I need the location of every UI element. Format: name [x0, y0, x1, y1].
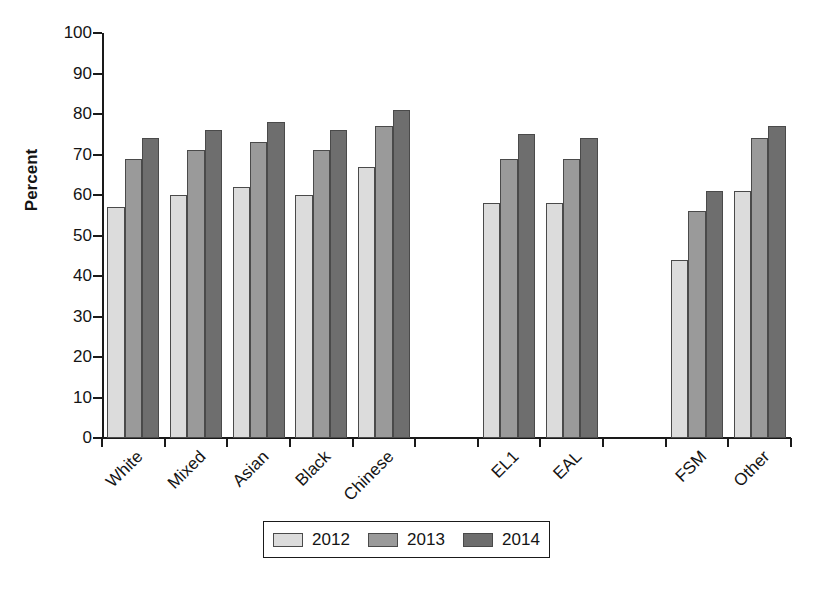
chart-legend: 201220132014: [263, 521, 550, 558]
legend-swatch-2012: [273, 533, 303, 547]
y-axis-line: [102, 33, 104, 438]
x-axis-tick: [352, 438, 354, 447]
legend-swatch-2013: [368, 533, 398, 547]
bar-eal-2012: [546, 203, 563, 438]
legend-item-2013[interactable]: 2013: [368, 530, 445, 550]
bar-asian-2012: [233, 187, 250, 438]
x-axis-label-mixed: Mixed: [90, 447, 210, 567]
bar-eal-2014: [580, 138, 597, 438]
bar-mixed-2013: [187, 150, 204, 438]
bar-black-2013: [313, 150, 330, 438]
bar-white-2014: [142, 138, 159, 438]
x-axis-tick: [727, 438, 729, 447]
y-axis-tick-label: 80: [48, 104, 92, 124]
bar-mixed-2012: [170, 195, 187, 438]
bar-el1-2014: [518, 134, 535, 438]
bar-chinese-2013: [375, 126, 392, 438]
y-axis-tick: [93, 397, 102, 399]
y-axis-tick-label: 70: [48, 145, 92, 165]
bar-el1-2012: [483, 203, 500, 438]
bar-el1-2013: [500, 159, 517, 438]
x-axis-label-white: White: [27, 447, 147, 567]
legend-label-2014: 2014: [502, 530, 540, 550]
legend-label-2013: 2013: [407, 530, 445, 550]
x-axis-tick: [477, 438, 479, 447]
bar-black-2014: [330, 130, 347, 438]
y-axis-title: Percent: [22, 100, 42, 260]
x-axis-tick: [164, 438, 166, 447]
y-axis-tick: [93, 275, 102, 277]
bar-white-2012: [107, 207, 124, 438]
y-axis-tick: [93, 235, 102, 237]
y-axis-tick: [93, 356, 102, 358]
bar-fsm-2014: [706, 191, 723, 438]
y-axis-tick-labels: 0102030405060708090100: [40, 33, 92, 438]
y-axis-tick-label: 90: [48, 64, 92, 84]
x-axis-label-other: Other: [654, 447, 774, 567]
bar-asian-2014: [267, 122, 284, 438]
y-axis-tick-label: 60: [48, 185, 92, 205]
plot-area: [102, 33, 791, 438]
y-axis-tick: [93, 113, 102, 115]
x-axis-label-fsm: FSM: [591, 447, 711, 567]
bar-fsm-2013: [688, 211, 705, 438]
bar-black-2012: [295, 195, 312, 438]
y-axis-tick-label: 40: [48, 266, 92, 286]
y-axis-tick: [93, 154, 102, 156]
bar-eal-2013: [563, 159, 580, 438]
y-axis-tick-label: 30: [48, 307, 92, 327]
y-axis-tick-label: 50: [48, 226, 92, 246]
bar-fsm-2012: [671, 260, 688, 438]
x-axis-tick: [602, 438, 604, 447]
x-axis-tick: [539, 438, 541, 447]
x-axis-tick: [414, 438, 416, 447]
x-axis-tick: [289, 438, 291, 447]
x-axis-tick: [226, 438, 228, 447]
y-axis-tick: [93, 194, 102, 196]
y-axis-tick-label: 100: [48, 23, 92, 43]
x-axis-label-asian: Asian: [153, 447, 273, 567]
bar-chinese-2012: [358, 167, 375, 438]
bar-other-2014: [768, 126, 785, 438]
x-axis-tick: [101, 438, 103, 447]
bar-mixed-2014: [205, 130, 222, 438]
x-axis-tick: [790, 438, 792, 447]
bar-other-2012: [734, 191, 751, 438]
y-axis-tick-label: 10: [48, 388, 92, 408]
legend-item-2012[interactable]: 2012: [273, 530, 350, 550]
legend-swatch-2014: [463, 533, 493, 547]
y-axis-tick: [93, 73, 102, 75]
bar-white-2013: [125, 159, 142, 438]
y-axis-tick: [93, 32, 102, 34]
bar-chart: Percent 0102030405060708090100 WhiteMixe…: [0, 0, 813, 591]
legend-item-2014[interactable]: 2014: [463, 530, 540, 550]
y-axis-tick-label: 0: [48, 428, 92, 448]
bar-chinese-2014: [393, 110, 410, 438]
y-axis-tick-label: 20: [48, 347, 92, 367]
x-axis-tick: [665, 438, 667, 447]
bar-other-2013: [751, 138, 768, 438]
bar-asian-2013: [250, 142, 267, 438]
y-axis-tick: [93, 316, 102, 318]
legend-label-2012: 2012: [312, 530, 350, 550]
